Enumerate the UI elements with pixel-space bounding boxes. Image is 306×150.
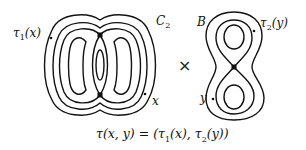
- label-y: y: [200, 92, 207, 104]
- formula-tau: τ(x, y) = (τ1(x), τ2(y)): [96, 128, 229, 144]
- contour-center-inner: [96, 50, 104, 80]
- critical-point-b-center: [232, 65, 237, 70]
- point-x: [144, 93, 147, 96]
- left-figure-c2: [45, 15, 156, 115]
- point-tau2-y: [253, 30, 256, 33]
- label-x: x: [152, 95, 159, 107]
- point-tau1-x: [50, 37, 53, 40]
- contour-b-critical-bottom: [216, 67, 254, 114]
- contour-critical-right: [100, 29, 141, 103]
- contour-center-lens: [93, 35, 108, 95]
- label-tau1-x: τ1(x): [13, 27, 41, 42]
- label-tau2-y: τ2(y): [260, 17, 288, 32]
- contour-critical-left: [60, 29, 101, 103]
- contour-inner-left-bean: [69, 38, 87, 95]
- label-c2: C2: [156, 15, 170, 30]
- product-operator: ×: [178, 58, 191, 74]
- contour-b-inner-top: [224, 25, 244, 49]
- label-b: B: [197, 16, 206, 28]
- contour-b-inner-bottom: [224, 85, 244, 109]
- critical-point-top: [98, 33, 103, 38]
- critical-point-bottom: [98, 93, 103, 98]
- point-y: [212, 98, 215, 101]
- contour-b-critical-top: [216, 20, 252, 67]
- contour-inner-right-bean: [114, 38, 132, 95]
